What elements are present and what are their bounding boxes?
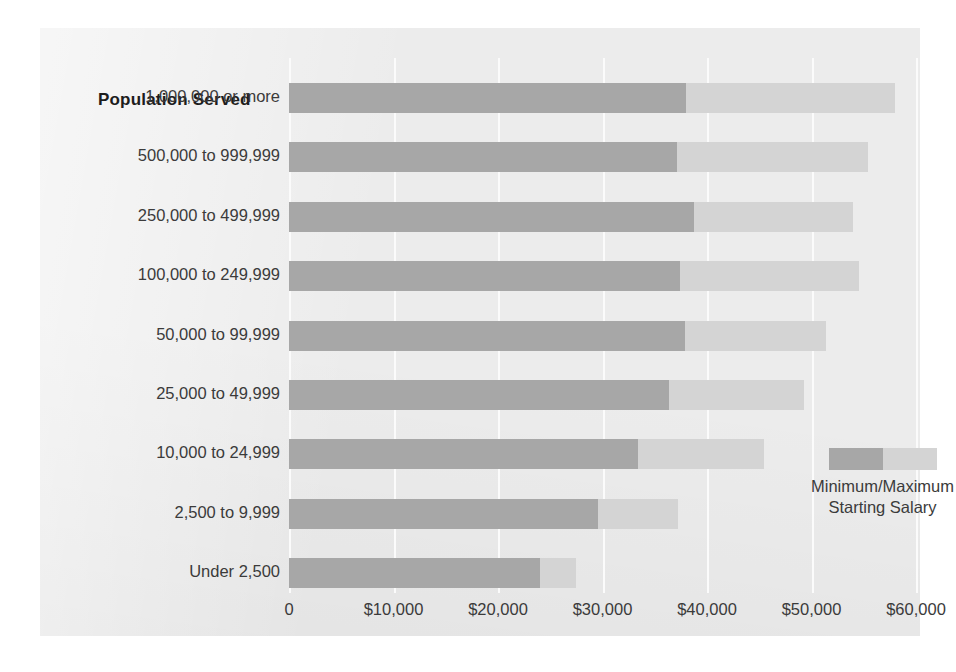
x-tick-label: $10,000 <box>364 600 424 619</box>
chart-legend: Minimum/Maximum Starting Salary <box>775 448 956 517</box>
legend-swatch-minimum <box>829 448 883 470</box>
x-axis-tick-labels: 0$10,000$20,000$30,000$40,000$50,000$60,… <box>289 600 956 630</box>
bar-segment-minimum <box>289 142 677 172</box>
bar-segment-maximum <box>540 558 577 588</box>
bar-row <box>289 261 916 291</box>
bar-segment-maximum <box>680 261 859 291</box>
bar-segment-minimum <box>289 439 638 469</box>
x-tick-label: $20,000 <box>468 600 528 619</box>
bar-row <box>289 202 916 232</box>
bar-segment-minimum <box>289 499 598 529</box>
bar-segment-minimum <box>289 558 540 588</box>
bar-segment-maximum <box>638 439 764 469</box>
bar-segment-minimum <box>289 380 669 410</box>
category-label: 500,000 to 999,999 <box>80 146 280 165</box>
category-label: 100,000 to 249,999 <box>80 265 280 284</box>
bar-segment-maximum <box>685 321 826 351</box>
legend-label-line-1: Minimum/Maximum <box>775 476 956 497</box>
bar-row <box>289 558 916 588</box>
bar-segment-minimum <box>289 202 694 232</box>
bar-segment-maximum <box>686 83 895 113</box>
bar-segment-minimum <box>289 83 686 113</box>
category-label: 25,000 to 49,999 <box>80 384 280 403</box>
legend-swatch-maximum <box>883 448 937 470</box>
category-label: Under 2,500 <box>80 562 280 581</box>
x-tick-label: 0 <box>284 600 293 619</box>
category-label: 250,000 to 499,999 <box>80 206 280 225</box>
bar-row <box>289 321 916 351</box>
chart-figure: Population Served 1,000,000 or more500,0… <box>0 0 956 672</box>
legend-label-line-2: Starting Salary <box>775 497 956 518</box>
bar-row <box>289 142 916 172</box>
x-tick-label: $60,000 <box>886 600 946 619</box>
bar-segment-maximum <box>677 142 868 172</box>
bar-segment-maximum <box>598 499 677 529</box>
x-tick-label: $30,000 <box>573 600 633 619</box>
bar-segment-maximum <box>669 380 804 410</box>
x-tick-label: $50,000 <box>782 600 842 619</box>
bar-segment-minimum <box>289 261 680 291</box>
category-axis-labels: 1,000,000 or more500,000 to 999,999250,0… <box>80 58 280 593</box>
bar-row <box>289 83 916 113</box>
chart-plate: Population Served 1,000,000 or more500,0… <box>40 28 920 636</box>
category-label: 2,500 to 9,999 <box>80 503 280 522</box>
bar-segment-maximum <box>694 202 853 232</box>
legend-swatches <box>829 448 937 470</box>
x-tick-label: $40,000 <box>677 600 737 619</box>
bar-row <box>289 380 916 410</box>
category-label: 10,000 to 24,999 <box>80 443 280 462</box>
category-label: 1,000,000 or more <box>80 87 280 106</box>
bar-segment-minimum <box>289 321 685 351</box>
category-label: 50,000 to 99,999 <box>80 325 280 344</box>
